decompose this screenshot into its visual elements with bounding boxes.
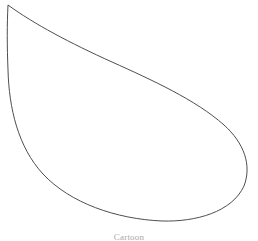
figure-canvas: Cartoon	[0, 0, 258, 241]
figure-caption: Cartoon	[0, 232, 258, 241]
leaf-outline-svg	[0, 0, 258, 241]
